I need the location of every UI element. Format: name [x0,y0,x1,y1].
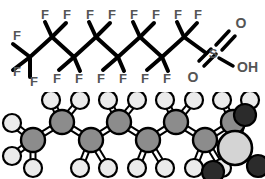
carbon-sphere [79,128,103,152]
fluorine-sphere [156,92,174,109]
fluorine-labels-top: F F F F F F F F [41,7,202,22]
fluorine-labels-left: F F [13,28,21,79]
f-label: F [13,64,21,79]
carbon-sphere [136,128,160,152]
ball-and-stick-panel [0,92,265,179]
f-label: F [75,71,83,86]
ball-and-stick-svg [0,92,265,179]
fluorine-sphere [99,159,117,177]
f-label: F [163,71,171,86]
fluorine-sphere [71,159,89,177]
fluorine-sphere [185,159,203,177]
fluorine-sphere [128,92,146,109]
carbon-sphere [21,128,45,152]
fluorine-sphere [99,92,117,109]
f-label: F [41,7,49,22]
chemical-structure-figure: F F F F F F F F F F F F F F F F F [0,0,265,179]
f-label: F [97,71,105,86]
f-label: F [30,74,38,89]
f-label: F [63,7,71,22]
carbon-sphere [193,128,217,152]
hydroxyl-label: OH [237,59,258,75]
carbon-sphere [50,110,74,134]
f-label: F [130,7,138,22]
fluorine-sphere [24,159,42,177]
fluorine-sphere [128,159,146,177]
fluorine-sphere [185,92,203,109]
fluorine-labels-bottom: F F F F F F F [30,71,171,89]
f-label: F [152,7,160,22]
sulfur-sphere [218,131,252,165]
f-label: F [119,71,127,86]
skeletal-formula-svg: F F F F F F F F F F F F F F F F F [0,0,265,92]
sulfur-label: S [209,46,218,61]
f-label: F [194,7,202,22]
f-label: F [174,7,182,22]
oxygen-sphere [234,104,256,126]
f-label: F [86,7,94,22]
cf2-up-bonds [45,22,197,37]
oxygen-label-bottom: O [188,69,199,85]
f-label: F [141,71,149,86]
carbon-backbone [30,37,206,57]
carbon-sphere [164,110,188,134]
fluorine-sphere [3,114,21,132]
cf2-down-bonds [59,57,168,71]
oxygen-label-top: O [236,15,247,31]
fluorine-sphere [213,92,231,109]
oxygen-sphere [202,161,224,179]
fluorine-sphere [156,159,174,177]
fluorine-sphere [3,147,21,165]
f-label: F [108,7,116,22]
skeletal-formula-panel: F F F F F F F F F F F F F F F F F [0,0,265,92]
f-label: F [53,71,61,86]
f-label: F [13,28,21,43]
fluorine-sphere [42,92,60,109]
carbon-sphere [107,110,131,134]
fluorine-sphere [71,92,89,109]
